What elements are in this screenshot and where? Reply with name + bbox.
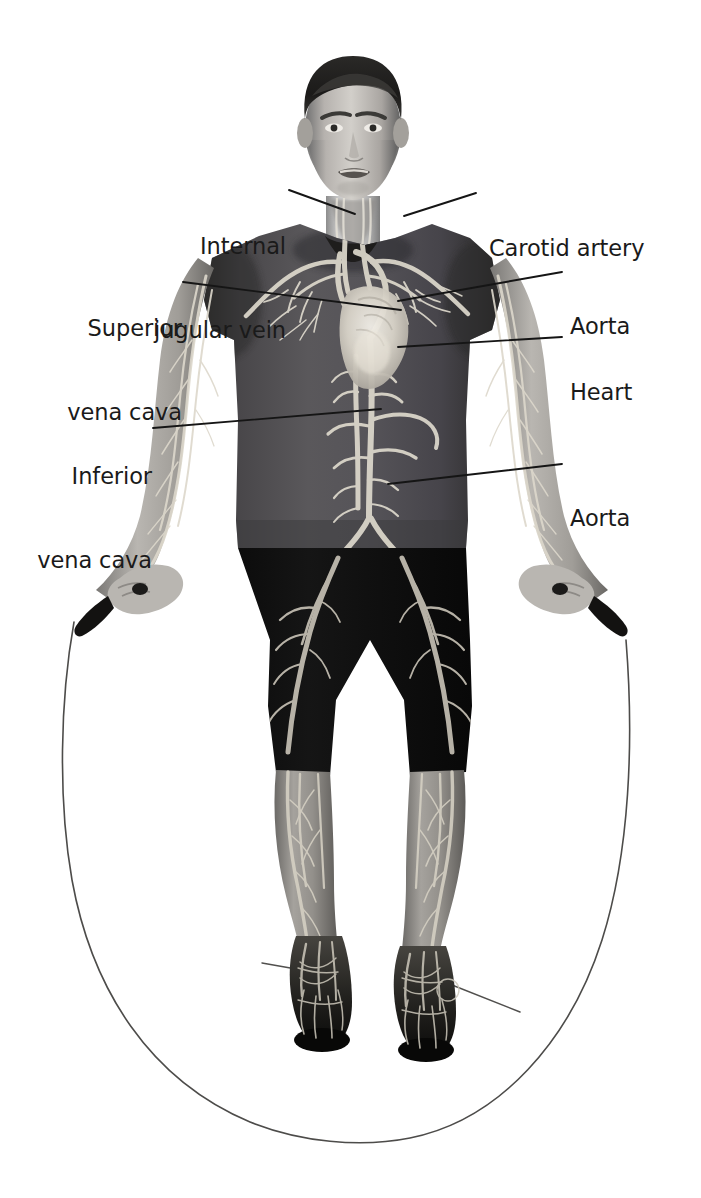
label-line-1: Inferior [24, 462, 152, 490]
jump-rope [62, 622, 629, 1143]
head-group [297, 56, 409, 260]
label-heart: Heart [570, 322, 690, 462]
leader-line-carotid-artery [404, 193, 476, 216]
label-line-1: Aorta [570, 504, 690, 532]
label-line-1: Internal [116, 232, 286, 260]
label-aorta-lower: Aorta [570, 448, 690, 588]
shorts-group [238, 548, 472, 776]
shoes-group [290, 936, 459, 1062]
label-inferior-vena-cava: Inferior vena cava [24, 406, 152, 630]
rope-handle-right [588, 596, 628, 636]
label-line-2: vena cava [24, 546, 152, 574]
label-line-1: Heart [570, 378, 690, 406]
legs-group [274, 770, 465, 952]
anatomy-figure: Internal jugular vein Carotid artery Sup… [0, 0, 701, 1198]
label-line-1: Superior [30, 314, 182, 342]
